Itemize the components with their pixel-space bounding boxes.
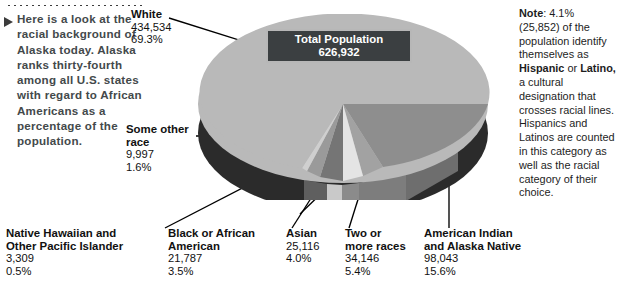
callout-some-other-race: Some other race 9,997 1.6%: [126, 123, 198, 173]
callout-american-indian: American Indian and Alaska Native 98,043…: [424, 227, 534, 277]
callout-native-hawaiian-percent: 0.5%: [6, 265, 146, 278]
callout-black-name: Black or African American: [168, 227, 272, 252]
callout-white-percent: 69.3%: [131, 33, 199, 46]
callout-two-or-more-percent: 5.4%: [345, 265, 411, 278]
infographic-canvas: Here is a look at the racial background …: [0, 0, 621, 282]
total-population-badge: Total Population 626,932: [266, 29, 412, 63]
note-block: Note: 4.1% (25,852) of the population id…: [519, 7, 617, 200]
triangle-right-icon: [4, 17, 13, 27]
callout-two-or-more-count: 34,146: [345, 252, 411, 265]
callout-american-indian-percent: 15.6%: [424, 265, 534, 278]
callout-two-or-more: Two or more races 34,146 5.4%: [345, 227, 411, 277]
callout-native-hawaiian-count: 3,309: [6, 252, 146, 265]
callout-white: White 434,534 69.3%: [131, 8, 199, 46]
callout-black: Black or African American 21,787 3.5%: [168, 227, 272, 277]
callout-some-other-race-count: 9,997: [126, 148, 198, 161]
callout-asian-count: 25,116: [286, 240, 344, 253]
callout-asian-percent: 4.0%: [286, 252, 344, 265]
total-population-label: Total Population: [295, 33, 383, 46]
note-body-2: a cultural designation that crosses raci…: [519, 76, 615, 198]
callout-white-count: 434,534: [131, 21, 199, 34]
callout-american-indian-count: 98,043: [424, 252, 534, 265]
total-population-value: 626,932: [318, 46, 359, 59]
note-mid: or: [564, 62, 580, 74]
note-lead-label: Note: [519, 7, 543, 19]
callout-native-hawaiian: Native Hawaiian and Other Pacific Island…: [6, 227, 146, 277]
callout-asian: Asian 25,116 4.0%: [286, 227, 344, 265]
callout-white-name: White: [131, 8, 199, 21]
callout-some-other-race-percent: 1.6%: [126, 161, 198, 174]
callout-native-hawaiian-name: Native Hawaiian and Other Pacific Island…: [6, 227, 146, 252]
callout-two-or-more-name: Two or more races: [345, 227, 411, 252]
callout-asian-name: Asian: [286, 227, 344, 240]
note-bold-latino: Latino,: [580, 62, 616, 74]
dotted-rule-divider: [6, 4, 144, 6]
callout-black-count: 21,787: [168, 252, 272, 265]
pie-chart: Total Population 626,932: [196, 14, 490, 200]
callout-american-indian-name: American Indian and Alaska Native: [424, 227, 534, 252]
callout-some-other-race-name: Some other race: [126, 123, 198, 148]
callout-black-percent: 3.5%: [168, 265, 272, 278]
note-bold-hispanic: Hispanic: [519, 62, 564, 74]
